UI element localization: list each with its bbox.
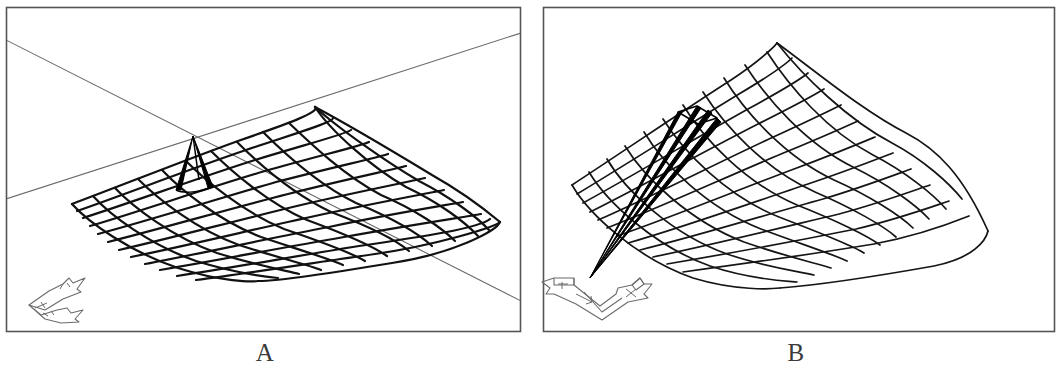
panel-a-canvas (0, 0, 530, 340)
panel-b-canvas (531, 0, 1061, 340)
panel-b-frame (544, 8, 1055, 332)
panel-a: A (0, 0, 530, 375)
panel-b: B (531, 0, 1061, 375)
panel-a-caption: A (0, 338, 530, 368)
panel-b-caption: B (531, 338, 1061, 368)
panel-a-frame (7, 8, 521, 332)
figure-root: A (0, 0, 1061, 375)
